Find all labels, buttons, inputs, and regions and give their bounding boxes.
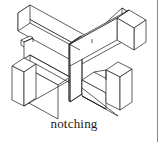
left-notch-block — [12, 58, 36, 106]
drawing-strokes — [12, 5, 146, 119]
notch-detail — [21, 36, 33, 47]
figure-caption: notching — [0, 116, 148, 132]
page-margin-rule — [157, 0, 158, 142]
left-notch-block-left-face — [12, 66, 24, 106]
crossing-beam-upper — [117, 10, 146, 50]
crossing-beam-connector-face — [70, 18, 117, 66]
figure-panel: notching — [0, 0, 164, 142]
right-notch-block-left-face — [106, 70, 120, 110]
